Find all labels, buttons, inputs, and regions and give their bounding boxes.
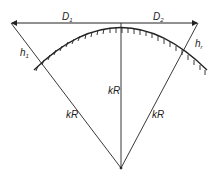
label-d1: D1 — [62, 11, 73, 23]
label-kr-right: kR — [152, 109, 164, 120]
label-kr-left: kR — [66, 109, 78, 120]
center-point — [120, 167, 122, 169]
distance-line — [11, 20, 198, 26]
left-arrowhead-icon — [11, 20, 17, 26]
earth-curvature-diagram: D1 D2 h1 hr kR kR kR — [0, 0, 216, 174]
label-hr: hr — [195, 38, 204, 50]
label-d2: D2 — [153, 11, 164, 23]
earth-surface-arc — [34, 28, 207, 76]
label-kr-center: kR — [108, 85, 120, 96]
right-radius-line — [121, 23, 198, 168]
label-h1: h1 — [20, 47, 29, 59]
